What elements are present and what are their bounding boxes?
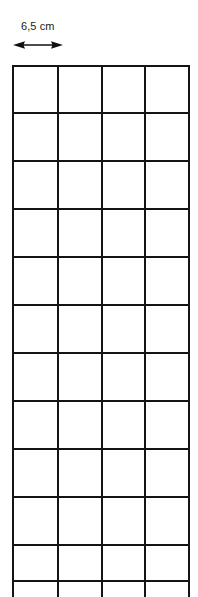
- dimension-annotation: 6,5 cm: [12, 20, 132, 56]
- mesh-grid: [12, 65, 190, 597]
- double-headed-arrow-icon: [12, 37, 64, 49]
- dimension-label: 6,5 cm: [21, 20, 55, 33]
- mesh-panel-diagram: 6,5 cm: [0, 0, 198, 597]
